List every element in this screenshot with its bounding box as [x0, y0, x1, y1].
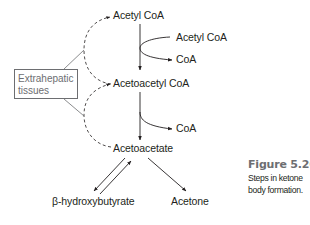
node-acetyl-coa-input: Acetyl CoA [176, 32, 227, 43]
figure-number: Figure 5.26 [248, 158, 310, 171]
node-acetyl-coa: Acetyl CoA [113, 10, 164, 21]
extrahepatic-tissues-box: Extrahepatic tissues [14, 69, 78, 99]
node-coa-release-2: CoA [176, 123, 196, 134]
figure-caption: Steps in ketone body formation. [248, 172, 310, 196]
node-coa-release-1: CoA [176, 54, 196, 65]
arrow-acetoacetate-to-acetone [148, 158, 186, 191]
node-acetoacetate: Acetoacetate [113, 143, 173, 154]
reversible-arrow-acetoacetate-hydroxybutyrate [94, 158, 131, 194]
node-beta-hydroxybutyrate: β-hydroxybutyrate [52, 196, 135, 207]
arrow-acetyl-to-acetoacetyl [140, 24, 172, 70]
dashed-arrow-upper-loop [84, 17, 111, 84]
node-acetoacetyl-coa: Acetoacetyl CoA [113, 78, 189, 89]
node-acetone: Acetone [171, 196, 209, 207]
extrahepatic-tissues-label: Extrahepatic tissues [18, 73, 74, 97]
arrow-acetoacetyl-to-acetoacetate [140, 92, 172, 140]
dashed-arrow-lower-loop [84, 84, 111, 147]
